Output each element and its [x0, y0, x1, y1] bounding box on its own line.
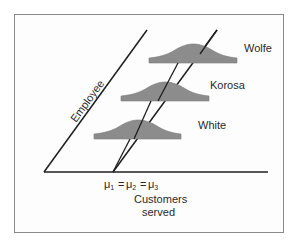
employee-axis-label: Employee: [68, 78, 106, 125]
three-normal-distributions-diagram: Employee Wolfe Korosa White μ1 = μ2 = μ3…: [0, 0, 298, 248]
mean-equality-annotation: μ1 = μ2 = μ3: [104, 178, 158, 191]
white-label: White: [198, 119, 226, 131]
white-distribution-curve: [94, 120, 181, 139]
equals-1: =: [118, 178, 124, 190]
customers-served-label-line2: served: [142, 206, 175, 218]
korosa-label: Korosa: [210, 79, 246, 91]
equals-2: =: [140, 178, 146, 190]
mu-2: μ2: [126, 178, 136, 191]
customers-served-label-line1: Customers: [134, 193, 188, 205]
mu-3: μ3: [148, 178, 158, 191]
wolfe-distribution-curve: [149, 44, 237, 63]
korosa-distribution-curve: [121, 82, 209, 101]
mu-1: μ1: [104, 178, 114, 191]
wolfe-label: Wolfe: [244, 42, 272, 54]
mean-line-segment-lower: [113, 139, 130, 172]
